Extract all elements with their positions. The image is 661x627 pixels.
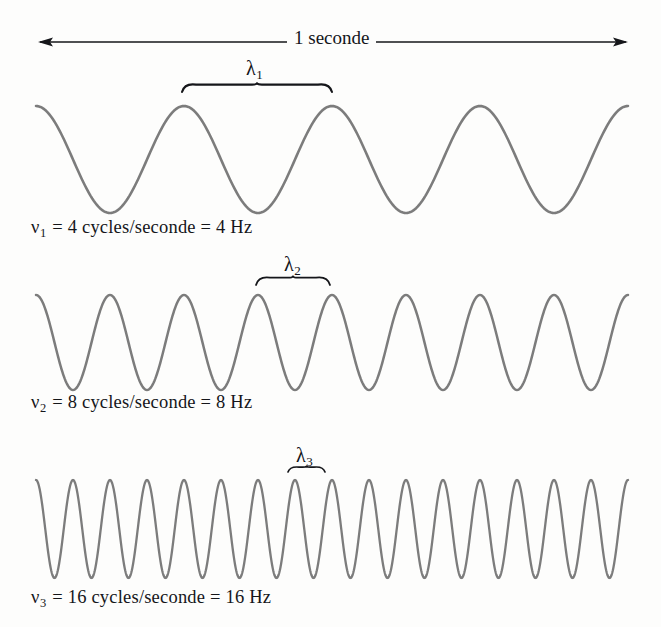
wavelength-label-1: λ1 [246, 57, 263, 83]
nu-subscript-3: 3 [40, 596, 48, 610]
hz-unit-2: Hz [230, 392, 252, 412]
frequency-caption-2: ν2 = 8 cycles/seconde = 8 Hz [31, 392, 252, 416]
hz-value-3: 16 [226, 587, 245, 607]
cycles-unit-2: cycles/seconde [82, 392, 196, 412]
hz-unit-1: Hz [230, 217, 252, 237]
nu-subscript-2: 2 [40, 401, 48, 415]
nu-symbol-1: ν [31, 217, 40, 237]
cycles-unit-3: cycles/seconde [91, 587, 205, 607]
frequency-caption-3: ν3 = 16 cycles/seconde = 16 Hz [31, 587, 271, 611]
lambda-symbol-1: λ [246, 57, 256, 79]
nu-symbol-3: ν [31, 587, 40, 607]
cycles-value-2: 8 [68, 392, 77, 412]
wavelength-label-3: λ3 [296, 444, 313, 470]
lambda-subscript-2: 2 [294, 263, 301, 278]
lambda-symbol-2: λ [284, 253, 294, 275]
hz-value-1: 4 [216, 217, 225, 237]
cycles-value-3: 16 [68, 587, 87, 607]
cycles-value-1: 4 [68, 217, 77, 237]
frequency-caption-1: ν1 = 4 cycles/seconde = 4 Hz [31, 217, 252, 241]
frequency-wavelength-diagram [0, 0, 661, 627]
cycles-unit-1: cycles/seconde [82, 217, 196, 237]
lambda-subscript-1: 1 [256, 67, 263, 82]
lambda-subscript-3: 3 [306, 454, 313, 469]
nu-symbol-2: ν [31, 392, 40, 412]
lambda-symbol-3: λ [296, 444, 306, 466]
hz-value-2: 8 [216, 392, 225, 412]
nu-subscript-1: 1 [40, 226, 48, 240]
hz-unit-3: Hz [249, 587, 271, 607]
wavelength-label-2: λ2 [284, 253, 301, 279]
one-second-label: 1 seconde [287, 27, 376, 49]
